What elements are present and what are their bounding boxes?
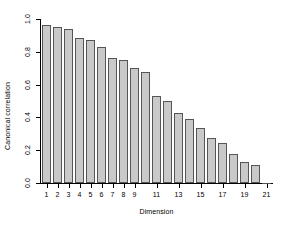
x-axis-tick bbox=[223, 184, 224, 188]
bar bbox=[108, 58, 117, 183]
x-axis-tick-label: 15 bbox=[194, 190, 208, 200]
bar bbox=[196, 128, 205, 183]
x-axis-tick bbox=[102, 184, 103, 188]
bar bbox=[119, 60, 128, 183]
bar bbox=[218, 143, 227, 183]
x-axis-tick-label: 11 bbox=[150, 190, 164, 200]
bar bbox=[141, 72, 150, 183]
x-axis-tick bbox=[47, 184, 48, 188]
bar bbox=[174, 113, 183, 183]
canonical-correlation-bar-chart: Canonical correlation 0.00.20.40.60.81.0… bbox=[0, 0, 281, 232]
x-axis-tick bbox=[179, 184, 180, 188]
bar bbox=[163, 101, 172, 183]
x-axis-tick-label: 17 bbox=[216, 190, 230, 200]
bar bbox=[64, 29, 73, 183]
x-axis-tick bbox=[157, 184, 158, 188]
bar bbox=[97, 47, 106, 183]
bar bbox=[185, 119, 194, 183]
bar bbox=[251, 165, 260, 183]
bar bbox=[53, 27, 62, 183]
x-axis-tick bbox=[135, 184, 136, 188]
x-axis-tick bbox=[201, 184, 202, 188]
x-axis-tick bbox=[267, 184, 268, 188]
x-axis-tick bbox=[80, 184, 81, 188]
x-axis-tick-label: 21 bbox=[260, 190, 274, 200]
x-axis-tick-label: 19 bbox=[238, 190, 252, 200]
x-axis-tick bbox=[58, 184, 59, 188]
x-axis-tick bbox=[245, 184, 246, 188]
bar bbox=[42, 25, 51, 183]
bar bbox=[240, 162, 249, 183]
bar bbox=[152, 96, 161, 183]
bar bbox=[130, 68, 139, 183]
bar bbox=[75, 38, 84, 183]
x-axis-tick-label: 13 bbox=[172, 190, 186, 200]
bar bbox=[207, 138, 216, 183]
x-axis-tick bbox=[91, 184, 92, 188]
bar bbox=[229, 154, 238, 183]
x-axis-tick-label: 9 bbox=[128, 190, 142, 200]
x-axis-title: Dimension bbox=[40, 206, 273, 218]
x-axis-tick bbox=[69, 184, 70, 188]
x-axis-tick bbox=[124, 184, 125, 188]
x-axis-tick bbox=[113, 184, 114, 188]
bar bbox=[86, 40, 95, 183]
